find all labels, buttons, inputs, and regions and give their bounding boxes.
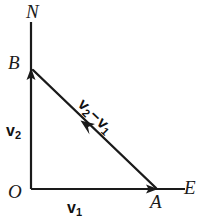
axis-label-east: E	[184, 178, 196, 197]
point-label-b: B	[8, 53, 20, 72]
vector-diagram: N B O A E v2 v1 v2−v1	[0, 0, 203, 222]
v2-minus-v1-line	[33, 70, 156, 188]
vector-label-v1: v1	[67, 200, 82, 216]
point-label-a: A	[150, 192, 162, 211]
point-label-origin: O	[8, 182, 22, 201]
vector-symbol-v2: v	[6, 122, 15, 139]
vector-symbol-v1: v	[67, 199, 76, 216]
axis-label-north: N	[26, 2, 39, 21]
vector-subscript-v2: 2	[15, 129, 21, 141]
vector-label-v2: v2	[6, 123, 21, 139]
vector-subscript-v1: 1	[76, 206, 82, 218]
